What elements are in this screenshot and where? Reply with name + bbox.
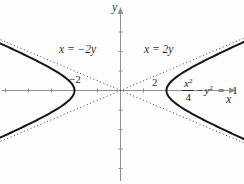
equation-fraction: x2 4	[182, 78, 194, 103]
asymptote-right-equation-label: x = 2y	[144, 44, 173, 55]
fraction-denominator: 4	[185, 91, 191, 103]
equation-rhs: 1	[232, 85, 238, 96]
y-axis-label: y	[112, 2, 117, 13]
equation-minus: −	[196, 85, 202, 96]
vertex-label-negative-2: −2	[69, 74, 81, 85]
hyperbola-equation: x2 4 − y2 = 1	[182, 78, 238, 103]
hyperbola-figure: y x x = −2y x = 2y −2 2 x2 4 − y2 = 1	[0, 0, 244, 184]
vertex-label-2: 2	[152, 77, 158, 88]
equation-y-squared: y2	[205, 85, 213, 96]
fraction-numerator: x2	[182, 78, 194, 91]
equation-equals: =	[218, 85, 224, 96]
asymptote-left-equation-label: x = −2y	[59, 44, 96, 55]
